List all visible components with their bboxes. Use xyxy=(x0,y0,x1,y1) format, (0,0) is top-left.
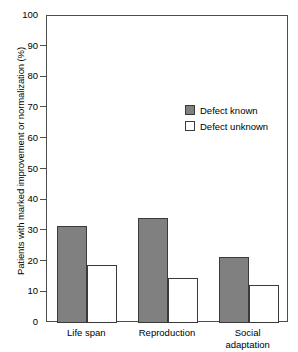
y-axis-tick-label: 80 xyxy=(0,71,38,81)
y-axis-tick-label: 90 xyxy=(0,41,38,51)
legend-item-defect-unknown: Defect unknown xyxy=(185,119,268,133)
legend-swatch-unknown-icon xyxy=(185,121,195,131)
bar-known xyxy=(138,218,168,323)
bar-unknown xyxy=(168,278,198,323)
legend-label-defect-known: Defect known xyxy=(200,105,258,116)
y-axis-tick-label: 0 xyxy=(0,317,38,327)
bar-unknown xyxy=(249,285,279,323)
bar-unknown xyxy=(87,265,117,323)
legend-label-defect-unknown: Defect unknown xyxy=(200,121,268,132)
y-axis-tick-label: 70 xyxy=(0,102,38,112)
x-axis-category-label: Social adaptation xyxy=(193,327,298,350)
bar-known xyxy=(219,257,249,323)
y-axis-tick-label: 40 xyxy=(0,194,38,204)
chart-legend: Defect known Defect unknown xyxy=(185,103,268,135)
bar-chart-figure: Patients with marked improvement or norm… xyxy=(0,0,298,352)
y-axis-tick-label: 20 xyxy=(0,256,38,266)
bar-known xyxy=(57,226,87,323)
y-axis-tick-label: 50 xyxy=(0,164,38,174)
y-axis-tick-label: 30 xyxy=(0,225,38,235)
y-axis-tick-label: 60 xyxy=(0,133,38,143)
legend-item-defect-known: Defect known xyxy=(185,103,268,117)
y-axis-tick-label: 10 xyxy=(0,286,38,296)
y-axis-tick-label: 100 xyxy=(0,10,38,20)
legend-swatch-known-icon xyxy=(185,105,195,115)
plot-area xyxy=(46,15,288,322)
